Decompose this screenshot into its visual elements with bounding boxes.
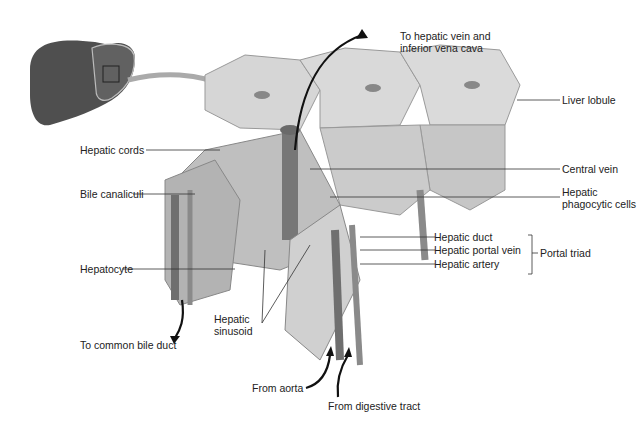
- label-line: inferior vena cava: [400, 42, 490, 54]
- label-line: To hepatic vein and: [400, 30, 490, 42]
- label-portal-triad: Portal triad: [540, 247, 591, 259]
- from-aorta-arrow: [306, 355, 330, 388]
- label-line: Hepatic: [562, 186, 636, 198]
- liver-lobule-diagram: To hepatic vein and inferior vena cava L…: [0, 0, 642, 426]
- label-hepatic-cords: Hepatic cords: [80, 144, 144, 156]
- label-from-digestive-tract: From digestive tract: [328, 400, 420, 412]
- label-liver-lobule: Liver lobule: [562, 94, 616, 106]
- label-hepatic-artery: Hepatic artery: [434, 258, 499, 270]
- whole-liver-illustration: [30, 40, 234, 125]
- label-hepatic-phagocytic-cells: Hepatic phagocytic cells: [562, 186, 636, 210]
- label-hepatic-sinusoid: Hepatic sinusoid: [214, 313, 253, 337]
- label-central-vein: Central vein: [562, 163, 618, 175]
- from-digestive-tract-arrow: [338, 355, 348, 397]
- label-from-aorta: From aorta: [252, 382, 303, 394]
- label-line: Hepatic: [214, 313, 253, 325]
- label-to-hepatic-vein: To hepatic vein and inferior vena cava: [400, 30, 490, 54]
- label-hepatic-portal-vein: Hepatic portal vein: [434, 244, 521, 256]
- label-bile-canaliculi: Bile canaliculi: [80, 188, 144, 200]
- illustration: [0, 0, 642, 426]
- label-hepatocyte: Hepatocyte: [80, 263, 133, 275]
- label-line: sinusoid: [214, 325, 253, 337]
- to-common-bile-duct-arrow: [175, 300, 183, 338]
- label-line: phagocytic cells: [562, 198, 636, 210]
- label-hepatic-duct: Hepatic duct: [434, 231, 492, 243]
- label-to-common-bile-duct: To common bile duct: [80, 339, 176, 351]
